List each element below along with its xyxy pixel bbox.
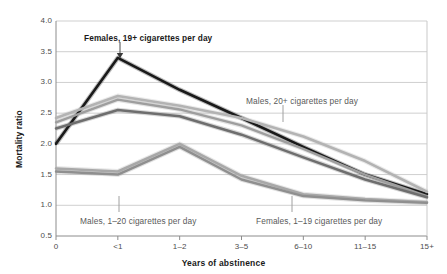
x-tick-label: 11–15 xyxy=(340,242,390,251)
x-tick-label: 15+ xyxy=(402,242,447,251)
x-axis-title: Years of abstinence xyxy=(0,258,447,268)
annotation-males-20plus: Males, 20+ cigarettes per day xyxy=(246,96,358,106)
x-tick-label: 1–2 xyxy=(155,242,205,251)
annotation-females-19plus: Females, 19+ cigarettes per day xyxy=(84,33,212,43)
x-tick-label: 3–5 xyxy=(217,242,267,251)
y-tick-label: 3.0 xyxy=(30,77,52,86)
series-lines xyxy=(56,58,427,203)
y-tick-label: 1.0 xyxy=(30,200,52,209)
line-chart xyxy=(0,0,447,274)
gridlines xyxy=(56,21,427,236)
x-tick-label: 0 xyxy=(31,242,81,251)
x-tick-label: 6–10 xyxy=(278,242,328,251)
annotation-females-1to19: Females, 1–19 cigarettes per day xyxy=(256,216,382,226)
y-tick-label: 0.5 xyxy=(30,231,52,240)
x-tick-marks xyxy=(56,236,427,240)
y-tick-label: 2.0 xyxy=(30,139,52,148)
y-tick-label: 2.5 xyxy=(30,108,52,117)
axis-lines xyxy=(56,21,427,236)
y-tick-label: 4.0 xyxy=(30,16,52,25)
chart-container: 0.51.01.52.02.53.03.54.0 0<11–23–56–1011… xyxy=(0,0,447,274)
x-tick-label: <1 xyxy=(93,242,143,251)
annotation-males-1to20: Males, 1–20 cigarettes per day xyxy=(80,216,196,226)
y-tick-label: 3.5 xyxy=(30,47,52,56)
y-tick-label: 1.5 xyxy=(30,170,52,179)
y-axis-title: Mortality ratio xyxy=(14,110,24,168)
